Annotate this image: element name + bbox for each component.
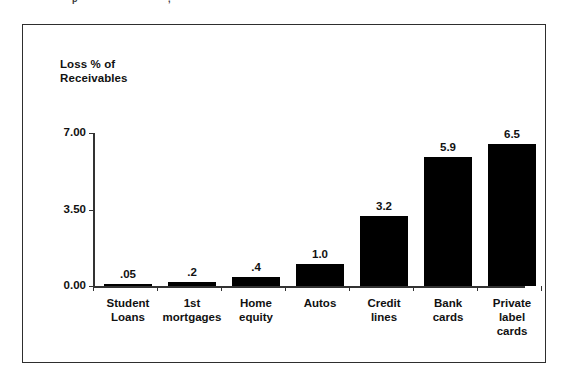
bar (424, 157, 472, 286)
y-tick-label: 7.00 (64, 127, 86, 139)
plot-area: 0.003.507.00.05Student Loans.21st mortga… (93, 128, 526, 290)
bar (232, 277, 280, 286)
bar-value-label: .05 (104, 269, 152, 281)
y-tick-label: 0.00 (64, 280, 86, 292)
bar-value-label: 5.9 (424, 142, 472, 154)
bar (104, 284, 152, 286)
x-category-label: Home equity (224, 296, 288, 324)
bar (360, 216, 408, 286)
bar (296, 264, 344, 286)
x-tick-mark (477, 286, 478, 291)
bar-value-label: .4 (232, 262, 280, 274)
artifact-fragment: , (168, 0, 171, 4)
x-tick-mark (93, 286, 94, 291)
bar (168, 282, 216, 286)
bar (488, 144, 536, 286)
bar-value-label: .2 (168, 267, 216, 279)
artifact-fragment: p (72, 0, 78, 4)
x-tick-mark (349, 286, 350, 291)
x-category-label: Autos (288, 296, 352, 310)
bar-value-label: 6.5 (488, 129, 536, 141)
y-tick-mark (89, 210, 94, 211)
x-category-label: 1st mortgages (160, 296, 224, 324)
x-category-label: Bank cards (416, 296, 480, 324)
y-axis-title: Loss % of Receivables (60, 57, 128, 85)
x-tick-mark (157, 286, 158, 291)
y-tick-label: 3.50 (64, 204, 86, 216)
x-tick-mark (221, 286, 222, 291)
x-category-label: Student Loans (96, 296, 160, 324)
x-category-label: Private label cards (480, 296, 544, 338)
x-category-label: Credit lines (352, 296, 416, 324)
x-tick-mark (413, 286, 414, 291)
x-tick-mark (541, 286, 542, 291)
y-tick-mark (89, 133, 94, 134)
scan-artifact-strip: p, (0, 0, 566, 9)
bar-value-label: 1.0 (296, 249, 344, 261)
bar-value-label: 3.2 (360, 201, 408, 213)
x-tick-mark (285, 286, 286, 291)
